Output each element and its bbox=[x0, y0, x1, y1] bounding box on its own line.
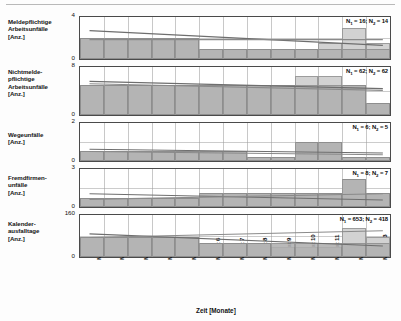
sample-size-annotation: N1 = 6; N2 = 5 bbox=[352, 124, 388, 132]
chart-panel: N1 = 6; N2 = 5 bbox=[79, 122, 391, 162]
chart-panel: N1 = 62; N2 = 62 bbox=[79, 66, 391, 116]
trend-lines bbox=[80, 169, 390, 207]
label-line: [Anz.] bbox=[8, 189, 68, 196]
sample-size-annotation: N1 = 8; N2 = 7 bbox=[352, 170, 388, 178]
label-line: Arbeitsunfälle bbox=[8, 83, 68, 90]
label-line: Fremdfirmen- bbox=[8, 174, 68, 181]
chart-panel: N1 = 653; N2 = 418 bbox=[79, 214, 391, 258]
y-axis-tick-max: 4 bbox=[49, 11, 75, 18]
trend-lines bbox=[80, 123, 390, 161]
label-line: Nichtmelde- bbox=[8, 68, 68, 75]
label-line: Arbeitsunfälle bbox=[8, 25, 68, 32]
trend-lines bbox=[80, 17, 390, 59]
label-line: Wegeunfälle bbox=[8, 131, 68, 138]
sample-size-annotation: N1 = 16; N2 = 14 bbox=[346, 18, 388, 26]
label-line: unfälle bbox=[8, 181, 68, 188]
y-axis-tick-max: 160 bbox=[49, 209, 75, 216]
label-line: Meldepflichtige bbox=[8, 18, 68, 25]
y-axis-tick-max: 8 bbox=[49, 61, 75, 68]
label-line: [Anz.] bbox=[8, 138, 68, 145]
sample-size-annotation: N1 = 62; N2 = 62 bbox=[346, 68, 388, 76]
y-axis-tick-min: 0 bbox=[49, 252, 75, 259]
panel-label-wegeunfaelle: Wegeunfälle[Anz.] bbox=[8, 131, 68, 146]
x-axis-title: Zeit [Monate] bbox=[196, 307, 236, 314]
y-axis-tick-min: 0 bbox=[49, 156, 75, 163]
panel-label-fremdfirmenunfaelle: Fremdfirmen-unfälle[Anz.] bbox=[8, 174, 68, 196]
chart-figure: MeldepflichtigeArbeitsunfälle[Anz.] Nich… bbox=[0, 0, 401, 321]
top-rule bbox=[6, 4, 395, 5]
label-line: [Anz.] bbox=[8, 33, 68, 40]
trend-line-series1 bbox=[90, 234, 383, 246]
label-line: [Anz.] bbox=[8, 90, 68, 97]
trend-lines bbox=[80, 67, 390, 115]
panel-label-kalenderausfalltage: Kalender-ausfalltage[Anz.] bbox=[8, 220, 68, 242]
panel-label-nichtmeldepflichtige-arbeitsunfaelle: Nichtmelde-pflichtigeArbeitsunfälle[Anz.… bbox=[8, 68, 68, 98]
chart-panel: N1 = 8; N2 = 7 bbox=[79, 168, 391, 208]
label-line: [Anz.] bbox=[8, 235, 68, 242]
y-axis-tick-min: 0 bbox=[49, 54, 75, 61]
chart-panel: N1 = 16; N2 = 14 bbox=[79, 16, 391, 60]
y-axis-tick-min: 0 bbox=[49, 110, 75, 117]
sample-size-annotation: N1 = 653; N2 = 418 bbox=[340, 216, 388, 224]
trend-line-series1 bbox=[90, 31, 383, 46]
label-line: pflichtige bbox=[8, 75, 68, 82]
y-axis-tick-max: 2 bbox=[49, 117, 75, 124]
panel-label-meldepflichtige-arbeitsunfaelle: MeldepflichtigeArbeitsunfälle[Anz.] bbox=[8, 18, 68, 40]
y-axis-tick-min: 0 bbox=[49, 202, 75, 209]
trend-line-series2 bbox=[90, 231, 383, 238]
label-line: Kalender- bbox=[8, 220, 68, 227]
label-line: ausfalltage bbox=[8, 227, 68, 234]
y-axis-tick-max: 3 bbox=[49, 163, 75, 170]
